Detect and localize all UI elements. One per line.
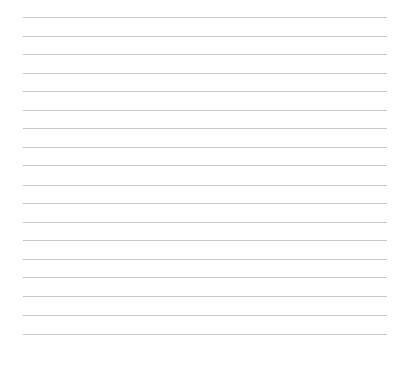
ruled-line xyxy=(23,128,387,129)
ruled-line xyxy=(23,110,387,111)
ruled-line xyxy=(23,73,387,74)
ruled-line xyxy=(23,259,387,260)
ruled-line xyxy=(23,203,387,204)
ruled-line xyxy=(23,36,387,37)
ruled-line xyxy=(23,91,387,92)
ruled-line xyxy=(23,17,387,18)
ruled-line xyxy=(23,315,387,316)
ruled-line xyxy=(23,147,387,148)
ruled-line xyxy=(23,240,387,241)
ruled-line xyxy=(23,54,387,55)
ruled-line xyxy=(23,165,387,166)
ruled-line xyxy=(23,296,387,297)
ruled-line xyxy=(23,334,387,335)
lined-paper-page xyxy=(0,0,407,369)
ruled-line xyxy=(23,222,387,223)
ruled-line xyxy=(23,277,387,278)
ruled-line xyxy=(23,185,387,186)
